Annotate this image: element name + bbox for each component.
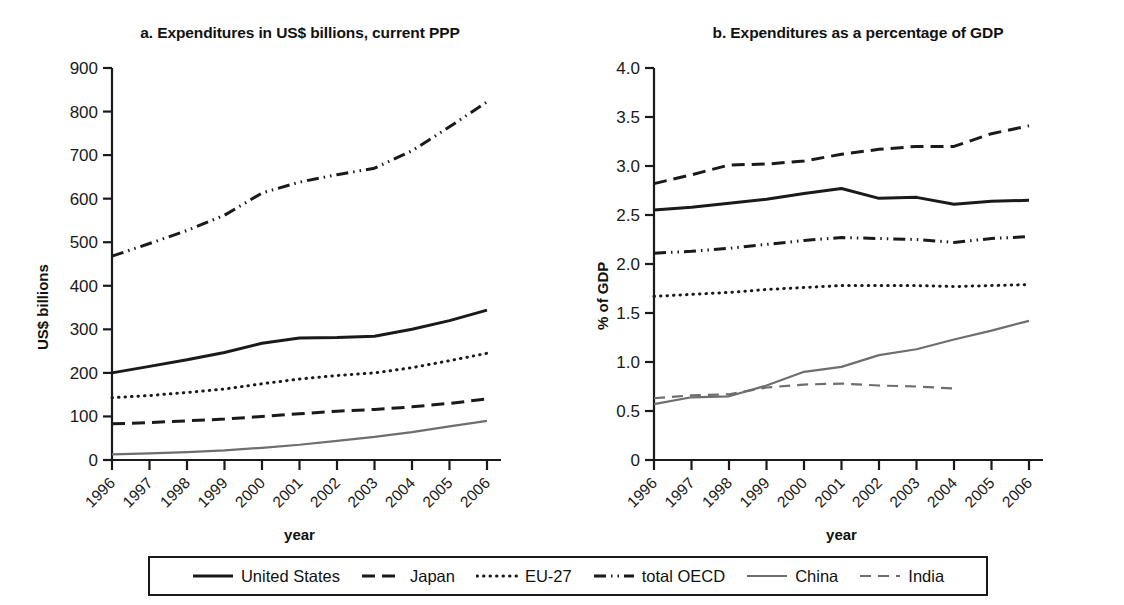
panel-b-plot: 00.51.01.52.02.53.03.54.0199619971998199… (562, 0, 1124, 545)
y-tick-label: 600 (70, 190, 98, 209)
x-tick-label: 1996 (82, 474, 118, 510)
legend-line-swatch-icon (476, 570, 518, 582)
y-tick-label: 400 (70, 277, 98, 296)
y-tick-label: 1.5 (616, 304, 640, 323)
x-tick-label: 2001 (811, 474, 847, 510)
x-tick-label: 2005 (419, 474, 455, 510)
y-tick-label: 0.5 (616, 402, 640, 421)
y-tick-label: 200 (70, 364, 98, 383)
series-line-total-oecd (112, 102, 487, 256)
y-tick-label: 2.5 (616, 206, 640, 225)
legend-line-swatch-icon (859, 570, 901, 582)
y-tick-label: 2.0 (616, 255, 640, 274)
series-line-china (112, 421, 487, 455)
x-tick-label: 2006 (457, 474, 493, 510)
series-line-india (654, 384, 954, 399)
x-tick-label: 2005 (961, 474, 997, 510)
y-tick-label: 3.0 (616, 157, 640, 176)
x-tick-label: 2003 (886, 474, 922, 510)
x-tick-label: 2004 (924, 474, 961, 511)
legend-item-label: EU-27 (525, 567, 572, 586)
x-tick-label: 1998 (157, 474, 193, 510)
x-tick-label: 2006 (999, 474, 1035, 510)
y-tick-label: 500 (70, 233, 98, 252)
y-tick-label: 1.0 (616, 353, 640, 372)
legend-item-label: India (908, 567, 944, 586)
figure-container: a. Expenditures in US$ billions, current… (0, 0, 1124, 605)
legend-item: China (746, 567, 838, 586)
y-tick-label: 700 (70, 146, 98, 165)
legend-item: Japan (361, 567, 455, 586)
chart-legend: United StatesJapanEU-27total OECDChinaIn… (148, 556, 988, 596)
x-tick-label: 1997 (119, 474, 155, 510)
x-tick-label: 1999 (194, 474, 230, 510)
y-tick-label: 800 (70, 103, 98, 122)
x-tick-label: 2000 (232, 474, 269, 511)
legend-item-label: United States (241, 567, 340, 586)
x-tick-label: 2001 (269, 474, 305, 510)
legend-line-swatch-icon (361, 570, 403, 582)
panel-a-plot: 0100200300400500600700800900199619971998… (0, 0, 562, 545)
series-line-united-states (112, 310, 487, 373)
y-tick-label: 900 (70, 59, 98, 78)
y-tick-label: 300 (70, 320, 98, 339)
y-tick-label: 0 (631, 451, 640, 470)
legend-item: United States (192, 567, 340, 586)
x-tick-label: 2002 (307, 474, 343, 510)
legend-item: India (859, 567, 944, 586)
series-line-eu-27 (112, 353, 487, 397)
y-tick-label: 0 (89, 451, 98, 470)
legend-line-swatch-icon (746, 570, 788, 582)
panels-row: a. Expenditures in US$ billions, current… (0, 0, 1124, 545)
series-line-china (654, 321, 1029, 404)
x-tick-label: 2002 (849, 474, 885, 510)
series-line-united-states (654, 189, 1029, 211)
y-tick-label: 3.5 (616, 108, 640, 127)
x-tick-label: 2004 (382, 474, 419, 511)
series-line-total-oecd (654, 237, 1029, 254)
x-tick-label: 1997 (661, 474, 697, 510)
series-line-eu-27 (654, 285, 1029, 297)
x-tick-label: 2000 (774, 474, 811, 511)
legend-item-label: total OECD (642, 567, 725, 586)
legend-item-label: China (795, 567, 838, 586)
x-tick-label: 1996 (624, 474, 660, 510)
series-line-japan (112, 399, 487, 424)
legend-line-swatch-icon (593, 570, 635, 582)
legend-item: total OECD (593, 567, 725, 586)
legend-item-label: Japan (410, 567, 455, 586)
legend-line-swatch-icon (192, 570, 234, 582)
x-tick-label: 1999 (736, 474, 772, 510)
x-tick-label: 2003 (344, 474, 380, 510)
legend-item: EU-27 (476, 567, 572, 586)
x-tick-label: 1998 (699, 474, 735, 510)
y-tick-label: 4.0 (616, 59, 640, 78)
chart-panel-a: a. Expenditures in US$ billions, current… (0, 0, 562, 545)
y-tick-label: 100 (70, 407, 98, 426)
chart-panel-b: b. Expenditures as a percentage of GDP %… (562, 0, 1124, 545)
series-line-japan (654, 126, 1029, 184)
